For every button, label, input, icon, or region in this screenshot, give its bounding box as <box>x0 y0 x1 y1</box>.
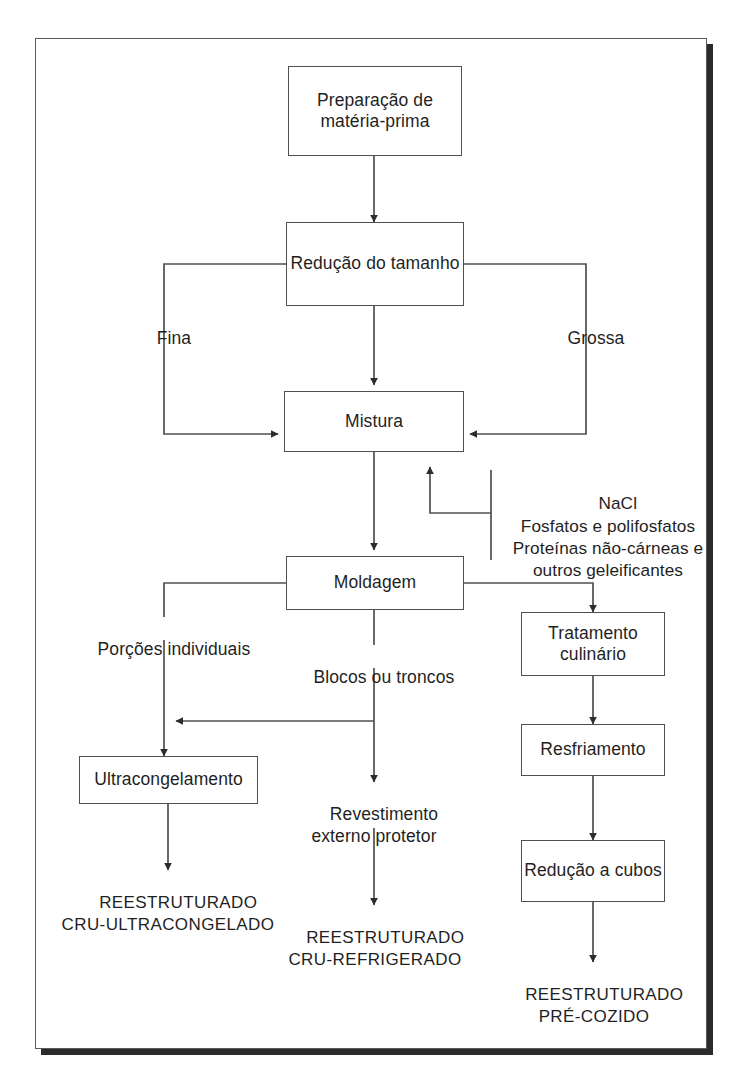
node-ultracongelamento-label: Ultracongelamento <box>94 769 243 790</box>
edge-label-revestimento-text: Revestimento externo protetor <box>311 804 438 846</box>
output-pre-cozido-text: REESTRUTURADO PRÉ-COZIDO <box>525 985 683 1026</box>
node-ultracongelamento[interactable]: Ultracongelamento <box>79 756 258 804</box>
output-reestruturado-cru-refrigerado: REESTRUTURADO CRU-REFRIGERADO <box>250 905 500 993</box>
edge-label-fina-text: Fina <box>157 328 191 348</box>
node-reducao-a-cubos-label: Redução a cubos <box>524 860 662 881</box>
node-mistura-label: Mistura <box>345 411 403 432</box>
diagram-canvas: Preparação de matéria-prima Redução do t… <box>0 0 746 1084</box>
output-reestruturado-pre-cozido: REESTRUTURADO PRÉ-COZIDO <box>470 962 718 1050</box>
node-tratamento-culinario[interactable]: Tratamento culinário <box>521 612 665 676</box>
edge-label-grossa-text: Grossa <box>567 328 624 348</box>
node-preparacao-materia-prima[interactable]: Preparação de matéria-prima <box>288 66 462 156</box>
node-resfriamento[interactable]: Resfriamento <box>521 724 665 776</box>
node-mistura[interactable]: Mistura <box>284 391 464 452</box>
edge-label-porcoes-text: Porções individuais <box>98 639 251 659</box>
node-resfriamento-label: Resfriamento <box>540 739 645 760</box>
node-reducao-do-tamanho[interactable]: Redução do tamanho <box>286 222 464 306</box>
node-moldagem-label: Moldagem <box>334 572 417 593</box>
ingredients-list: NaCl Fosfatos e polifosfatos Proteínas n… <box>498 470 718 604</box>
edge-label-blocos-ou-troncos: Blocos ou troncos <box>279 645 469 711</box>
edge-label-grossa: Grossa <box>538 306 634 372</box>
node-reducao-tamanho-label: Redução do tamanho <box>290 253 459 274</box>
edge-label-blocos-text: Blocos ou troncos <box>314 667 455 687</box>
node-moldagem[interactable]: Moldagem <box>286 556 464 610</box>
output-cru-ultracongelado-text: REESTRUTURADO CRU-ULTRACONGELADO <box>62 893 275 934</box>
node-preparacao-label: Preparação de matéria-prima <box>289 90 461 133</box>
edge-label-fina: Fina <box>116 306 212 372</box>
edge-label-porcoes-individuais: Porções individuais <box>59 617 269 683</box>
ingredients-list-text: NaCl Fosfatos e polifosfatos Proteínas n… <box>513 493 704 580</box>
output-cru-refrigerado-text: REESTRUTURADO CRU-REFRIGERADO <box>288 928 464 969</box>
edge-label-revestimento-externo-protetor: Revestimento externo protetor <box>266 782 482 870</box>
node-tratamento-culinario-label: Tratamento culinário <box>522 623 664 666</box>
node-reducao-a-cubos[interactable]: Redução a cubos <box>521 840 665 902</box>
